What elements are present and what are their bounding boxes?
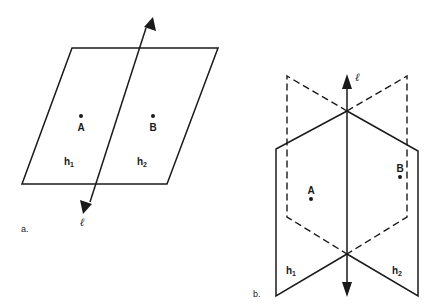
arrowhead-down-icon: [80, 200, 92, 214]
arrowhead-down-icon: [342, 282, 352, 297]
diagram-a: A B h1 h2 ℓ a.: [21, 17, 218, 234]
half-plane-h1-label: h1: [64, 156, 74, 168]
dashed-half-plane-left: [287, 76, 347, 254]
point-b-label: B: [396, 163, 403, 174]
point-a: [79, 114, 83, 118]
point-b-label: B: [149, 122, 156, 133]
line-l-arrow: [90, 28, 146, 202]
line-l-label: ℓ: [80, 216, 85, 229]
diagram-b: ℓ A B h1 h2 b.: [253, 71, 418, 299]
point-a-label: A: [307, 185, 314, 196]
half-plane-h2-label: h2: [392, 265, 402, 277]
arrowhead-up-icon: [342, 74, 352, 89]
figure-canvas: A B h1 h2 ℓ a. ℓ A B h1 h2: [0, 0, 439, 307]
caption-b: b.: [253, 289, 261, 299]
half-plane-h1-label: h1: [286, 265, 296, 277]
line-l-label: ℓ: [355, 71, 360, 84]
plane-parallelogram: [22, 48, 218, 184]
point-a: [309, 197, 313, 201]
point-b: [398, 175, 402, 179]
point-b: [151, 114, 155, 118]
half-plane-h2-label: h2: [137, 156, 147, 168]
point-a-label: A: [77, 122, 84, 133]
caption-a: a.: [21, 224, 29, 234]
